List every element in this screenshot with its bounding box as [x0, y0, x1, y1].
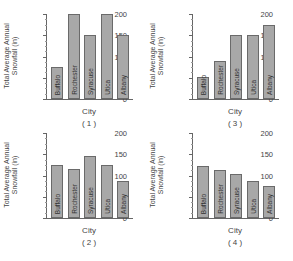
minor-tick: [191, 25, 193, 26]
chart-panel-1: Total Average Annual Snowfall (in)050100…: [0, 0, 146, 130]
bar-albany: Albany: [263, 186, 275, 218]
minor-tick: [45, 160, 47, 161]
minor-tick: [191, 207, 193, 208]
minor-tick: [191, 62, 193, 63]
bar-buffalo: Buffalo: [51, 165, 63, 218]
bar-albany: Albany: [117, 35, 129, 99]
bar-label: Buffalo: [54, 194, 61, 214]
minor-tick: [45, 88, 47, 89]
bar-label: Utica: [103, 80, 110, 95]
minor-tick: [191, 144, 193, 145]
y-tick: [43, 35, 47, 36]
minor-tick: [45, 181, 47, 182]
y-tick-label: 200: [260, 10, 273, 19]
minor-tick: [191, 181, 193, 182]
bar-rochester: Rochester: [214, 61, 226, 99]
bar-utica: Utica: [247, 35, 259, 99]
bar-albany: Albany: [117, 181, 129, 218]
bar-label: Utica: [103, 199, 110, 214]
plot-area: 050100150200BuffaloRochesterSyracuseUtic…: [192, 14, 279, 100]
minor-tick: [45, 138, 47, 139]
minor-tick: [45, 41, 47, 42]
y-tick: [189, 57, 193, 58]
minor-tick: [45, 94, 47, 95]
y-tick: [43, 154, 47, 155]
minor-tick: [45, 46, 47, 47]
x-axis-label: City: [192, 107, 278, 116]
y-tick: [43, 99, 47, 100]
y-tick: [189, 218, 193, 219]
minor-tick: [45, 51, 47, 52]
bar-buffalo: Buffalo: [197, 77, 209, 99]
minor-tick: [45, 19, 47, 20]
y-axis-label: Total Average Annual Snowfall (in): [149, 11, 173, 101]
bar-rochester: Rochester: [68, 14, 80, 99]
y-tick: [43, 176, 47, 177]
chart-caption: ( 2 ): [46, 238, 132, 247]
bar-buffalo: Buffalo: [197, 166, 209, 218]
minor-tick: [191, 67, 193, 68]
minor-tick: [45, 62, 47, 63]
bar-label: Buffalo: [54, 75, 61, 95]
bar-label: Buffalo: [200, 75, 207, 95]
chart-panel-2: Total Average Annual Snowfall (in)050100…: [146, 0, 292, 130]
y-tick: [43, 218, 47, 219]
y-tick: [189, 35, 193, 36]
bar-utica: Utica: [247, 181, 259, 218]
minor-tick: [191, 94, 193, 95]
minor-tick: [45, 30, 47, 31]
minor-tick: [45, 207, 47, 208]
bar-label: Syracuse: [87, 68, 94, 95]
bar-label: Buffalo: [200, 194, 207, 214]
y-tick-label: 100: [114, 171, 127, 180]
bar-buffalo: Buffalo: [51, 67, 63, 99]
y-tick: [189, 99, 193, 100]
y-tick: [189, 154, 193, 155]
y-tick: [43, 78, 47, 79]
bar-label: Rochester: [216, 184, 223, 214]
minor-tick: [191, 191, 193, 192]
y-axis-label: Total Average Annual Snowfall (in): [3, 11, 27, 101]
plot-area: 050100150200BuffaloRochesterSyracuseUtic…: [46, 14, 133, 100]
plot-area: 050100150200BuffaloRochesterSyracuseUtic…: [192, 133, 279, 219]
y-tick-label: 200: [114, 129, 127, 138]
y-tick: [189, 78, 193, 79]
minor-tick: [45, 72, 47, 73]
y-tick-label: 150: [114, 150, 127, 159]
y-tick-label: 200: [260, 129, 273, 138]
bar-syracuse: Syracuse: [84, 35, 96, 99]
bar-utica: Utica: [101, 165, 113, 218]
plot-area: 050100150200BuffaloRochesterSyracuseUtic…: [46, 133, 133, 219]
y-tick: [189, 197, 193, 198]
y-tick: [43, 57, 47, 58]
minor-tick: [191, 138, 193, 139]
chart-caption: ( 3 ): [192, 119, 278, 128]
bar-utica: Utica: [101, 14, 113, 99]
minor-tick: [191, 202, 193, 203]
bar-label: Utica: [249, 80, 256, 95]
y-tick: [189, 176, 193, 177]
minor-tick: [45, 165, 47, 166]
minor-tick: [45, 202, 47, 203]
bar-label: Rochester: [70, 65, 77, 95]
minor-tick: [45, 25, 47, 26]
minor-tick: [191, 160, 193, 161]
bar-rochester: Rochester: [68, 169, 80, 218]
minor-tick: [191, 213, 193, 214]
minor-tick: [191, 46, 193, 47]
bar-rochester: Rochester: [214, 170, 226, 218]
bar-label: Albany: [120, 75, 127, 95]
minor-tick: [45, 186, 47, 187]
bar-label: Albany: [266, 194, 273, 214]
minor-tick: [191, 88, 193, 89]
minor-tick: [45, 213, 47, 214]
minor-tick: [191, 19, 193, 20]
chart-caption: ( 1 ): [46, 119, 132, 128]
bar-albany: Albany: [263, 25, 275, 99]
bar-label: Syracuse: [87, 187, 94, 214]
chart-caption: ( 4 ): [192, 238, 278, 247]
minor-tick: [191, 51, 193, 52]
minor-tick: [191, 83, 193, 84]
bar-label: Utica: [249, 199, 256, 214]
x-axis-label: City: [46, 107, 132, 116]
